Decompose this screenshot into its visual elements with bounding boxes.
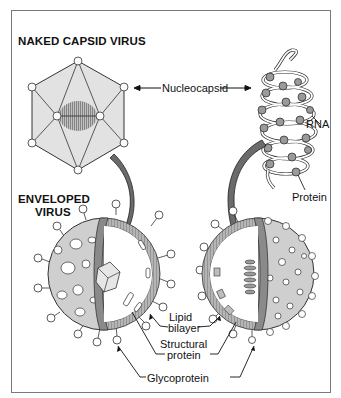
enveloped-title-line2: VIRUS	[35, 206, 71, 219]
structural-protein-label-line2: protein	[167, 349, 201, 361]
enveloped-title-line1: ENVELOPED	[18, 193, 98, 206]
naked-capsid-title: NAKED CAPSID VIRUS	[18, 35, 146, 48]
glycoprotein-label: Glycoprotein	[147, 372, 209, 384]
lipid-bilayer-label-line2: bilayer	[168, 322, 200, 334]
enveloped-virus-right	[196, 207, 319, 344]
protein-label: Protein	[292, 191, 327, 203]
nucleocapsid-label: Nucleocapsid	[162, 82, 228, 94]
rna-label: RNA	[306, 118, 329, 130]
enveloped-virus-left	[34, 200, 175, 346]
